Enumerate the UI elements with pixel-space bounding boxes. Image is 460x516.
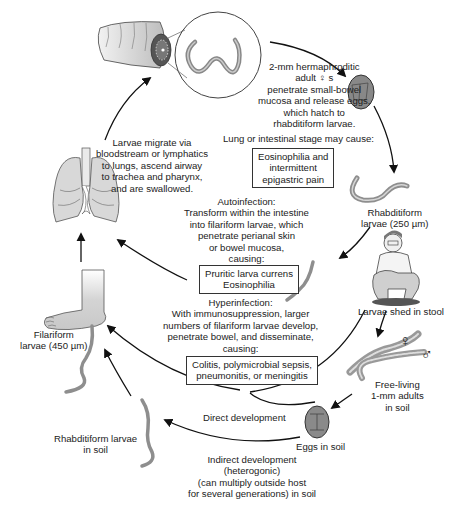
text-line: for several generations) in soil xyxy=(188,488,316,499)
text-line: mucosa and release eggs, xyxy=(258,95,371,106)
text-line: causing: xyxy=(184,253,309,264)
migration-label: Larvae migrate via bloodstream or lympha… xyxy=(96,137,208,194)
text-line: Eosinophilia xyxy=(205,279,293,290)
text-line: in soil xyxy=(371,402,424,413)
text-line: causing: xyxy=(163,343,318,354)
text-line: rhabditiform larvae. xyxy=(258,118,371,129)
text-line: and are swallowed. xyxy=(96,183,208,194)
text-line: epigastric pain xyxy=(258,174,328,185)
text-line: Free-living xyxy=(371,379,424,390)
text-line: Rhabditiform larvae xyxy=(54,433,137,444)
text-line: Autoinfection: xyxy=(184,196,309,207)
larvae-shed-label: Larvae shed in stool xyxy=(358,306,444,317)
adults-in-gut-label: 2-mm hermaphroditic adult ♀ s penetrate … xyxy=(258,61,371,129)
hyperinfection-label: Hyperinfection: With immunosuppression, … xyxy=(163,297,318,354)
eggs-in-soil-label: Eggs in soil xyxy=(296,441,345,452)
free-living-adults-icon xyxy=(350,334,424,378)
person-illustration xyxy=(372,230,420,306)
text-line: larvae (250 µm) xyxy=(361,218,428,229)
text-line: Rhabditiform xyxy=(361,207,428,218)
intestine-illustration xyxy=(98,12,261,98)
hyperinfection-effects-box: Colitis, polymicrobial sepsis, pneumonit… xyxy=(186,356,318,385)
female-symbol: ♀ xyxy=(399,332,411,350)
text-line: pneumonitis, or meningitis xyxy=(192,370,312,381)
text-line: penetrate bowel, and disseminate, xyxy=(163,331,318,342)
text-line: Hyperinfection: xyxy=(163,297,318,308)
text-line: Colitis, polymicrobial sepsis, xyxy=(192,359,312,370)
adult-worm-icon xyxy=(188,40,240,72)
free-living-adults-label: Free-living 1-mm adults in soil xyxy=(371,379,424,413)
text-line: to lungs, ascend airway xyxy=(96,160,208,171)
soil-egg-icon xyxy=(305,406,329,438)
autoinfection-label: Autoinfection: Transform within the inte… xyxy=(184,196,309,264)
foot-illustration xyxy=(44,270,105,330)
text-line: which hatch to xyxy=(258,107,371,118)
text-line: (can multiply outside host xyxy=(188,477,316,488)
direct-development-label: Direct development xyxy=(203,412,286,423)
text-line: intermittent xyxy=(258,162,328,173)
soil-rhabditiform-larva-icon xyxy=(142,400,153,466)
text-line: in soil xyxy=(54,444,137,455)
text-line: larvae (450 µm) xyxy=(20,340,87,351)
lung-stage-note: Lung or intestinal stage may cause: xyxy=(223,133,374,144)
male-symbol: ♂ xyxy=(421,346,433,364)
text-line: or bowel mucosa, xyxy=(184,242,309,253)
text-line: into filariform larvae, which xyxy=(184,219,309,230)
text-line: penetrate perianal skin xyxy=(184,230,309,241)
text-line: penetrate small-bowel xyxy=(258,84,371,95)
autoinfection-effects-box: Pruritic larva currens Eosinophilia xyxy=(199,265,299,294)
filariform-larvae-label: Filariform larvae (450 µm) xyxy=(20,329,87,352)
text-line: (heterogonic) xyxy=(188,465,316,476)
text-line: Transform within the intestine xyxy=(184,207,309,218)
rhabditiform-soil-label: Rhabditiform larvae in soil xyxy=(54,433,137,456)
text-line: Larvae migrate via xyxy=(96,137,208,148)
text-line: Filariform xyxy=(20,329,87,340)
rhabditiform-larva-icon xyxy=(352,178,407,200)
text-line: With immunosuppression, larger xyxy=(163,308,318,319)
text-line: Pruritic larva currens xyxy=(205,268,293,279)
lung-stage-effects-box: Eosinophilia and intermittent epigastric… xyxy=(252,148,334,188)
text-line: 2-mm hermaphroditic xyxy=(258,61,371,72)
rhabditiform-larvae-label: Rhabditiform larvae (250 µm) xyxy=(361,207,428,230)
text-line: 1-mm adults xyxy=(371,390,424,401)
text-line: Eosinophilia and xyxy=(258,151,328,162)
text-line: adult ♀ s xyxy=(258,72,371,83)
text-line: Indirect development xyxy=(188,454,316,465)
indirect-development-label: Indirect development (heterogonic) (can … xyxy=(188,454,316,500)
text-line: bloodstream or lymphatics xyxy=(96,148,208,159)
text-line: to trachea and pharynx, xyxy=(96,171,208,182)
text-line: numbers of filariform larvae develop, xyxy=(163,320,318,331)
